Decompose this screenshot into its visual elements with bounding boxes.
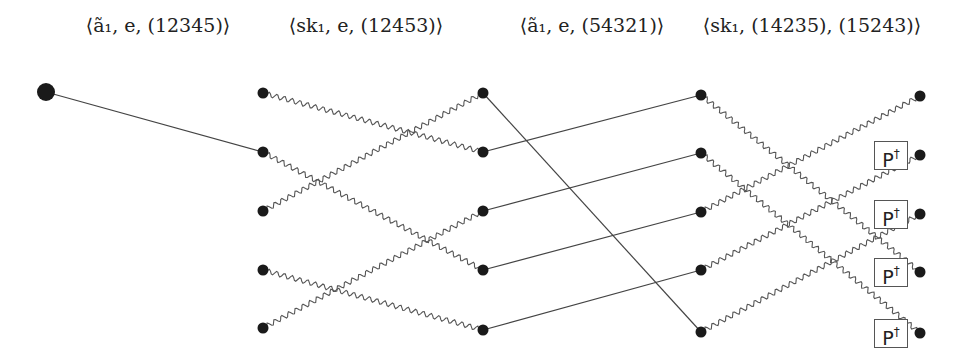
node-col0-row0: [258, 88, 269, 99]
straight-wire-1-2: [483, 153, 701, 211]
p-dagger-gate-box: P†: [874, 200, 908, 229]
node-col2-row4: [696, 327, 707, 338]
start-node: [37, 83, 55, 101]
node-col3-row1: [915, 150, 926, 161]
gate-label: P: [882, 149, 893, 171]
node-col1-row3: [478, 265, 489, 276]
dagger-superscript: †: [894, 325, 900, 339]
node-col2-row2: [696, 207, 707, 218]
gate-label: P: [882, 208, 893, 230]
straight-wire-1-4: [483, 270, 701, 330]
node-col1-row1: [478, 147, 489, 158]
wavy-wire-0-0: [263, 92, 483, 152]
wavy-wire-0-3: [263, 269, 483, 330]
node-col1-row2: [478, 206, 489, 217]
column-header-2: ⟨ã₁, e, (54321)⟩: [520, 14, 664, 36]
straight-wire-1-3: [483, 212, 701, 270]
p-dagger-gate-box: P†: [874, 141, 908, 170]
wavy-wire-0-1: [263, 152, 483, 270]
start-wire: [46, 92, 263, 152]
node-col1-row0: [478, 88, 489, 99]
wavy-wire-0-2: [263, 93, 483, 211]
straight-wire-1-1: [483, 95, 701, 152]
wavy-wire-2-0: [701, 95, 920, 272]
straight-wire-1-0: [483, 93, 701, 332]
gate-label: P: [882, 327, 893, 349]
node-col0-row1: [258, 147, 269, 158]
wavy-wire-0-4: [263, 211, 483, 328]
p-dagger-gate-box: P†: [874, 258, 908, 287]
node-col3-row4: [915, 328, 926, 339]
dagger-superscript: †: [894, 206, 900, 220]
node-col0-row3: [258, 265, 269, 276]
node-col0-row4: [258, 323, 269, 334]
dagger-superscript: †: [894, 264, 900, 278]
node-col3-row2: [915, 209, 926, 220]
column-header-1: ⟨sk₁, e, (12453)⟩: [289, 14, 443, 36]
node-col0-row2: [258, 206, 269, 217]
wire-layer: [0, 0, 962, 364]
node-col1-row4: [478, 325, 489, 336]
column-header-0: ⟨ã₁, e, (12345)⟩: [86, 14, 230, 36]
dagger-superscript: †: [894, 147, 900, 161]
node-col2-row3: [696, 265, 707, 276]
quantum-circuit-diagram: ⟨ã₁, e, (12345)⟩⟨sk₁, e, (12453)⟩⟨ã₁, e,…: [0, 0, 962, 364]
node-col3-row3: [915, 267, 926, 278]
gate-label: P: [882, 266, 893, 288]
node-col2-row0: [696, 90, 707, 101]
column-header-3: ⟨sk₁, (14235), (15243)⟩: [703, 14, 921, 36]
p-dagger-gate-box: P†: [874, 319, 908, 348]
node-col3-row0: [915, 91, 926, 102]
node-col2-row1: [696, 148, 707, 159]
